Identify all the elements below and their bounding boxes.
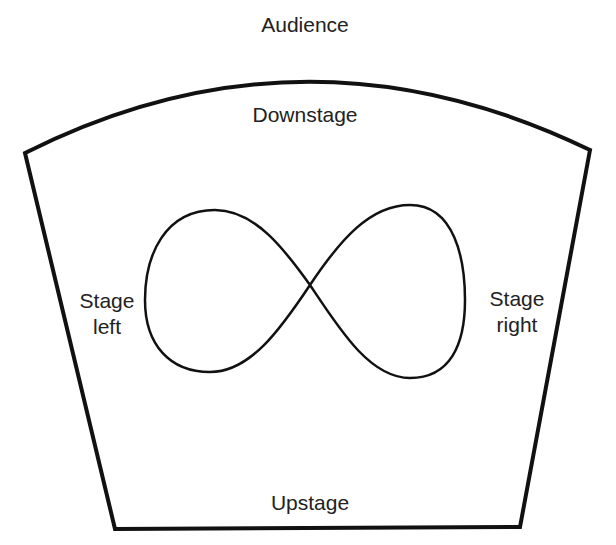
downstage-label: Downstage bbox=[240, 103, 370, 127]
stage-right-label-line1: Stage bbox=[472, 287, 562, 311]
stage-right-label-line2: right bbox=[472, 313, 562, 337]
stage-diagram bbox=[0, 0, 616, 545]
upstage-label: Upstage bbox=[250, 491, 370, 515]
stage-left-label-line2: left bbox=[62, 315, 152, 339]
audience-label: Audience bbox=[250, 13, 360, 37]
figure-eight-path bbox=[145, 205, 465, 378]
stage-left-label-line1: Stage bbox=[62, 289, 152, 313]
